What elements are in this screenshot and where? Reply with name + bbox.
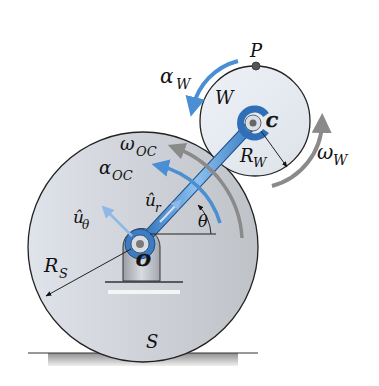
svg-text:W: W [176,76,192,92]
label-omega-w: ω W [317,140,349,168]
svg-text:α: α [160,64,174,88]
svg-text:W: W [333,152,349,168]
label-theta: θ [198,212,208,231]
svg-text:R: R [43,254,58,276]
label-alpha-w: α W [160,64,192,92]
svg-text:R: R [239,145,254,166]
label-w: W [215,87,235,108]
svg-text:ω: ω [120,133,135,154]
svg-text:W: W [253,155,268,170]
svg-text:S: S [59,266,68,281]
point-p [252,62,260,70]
label-p: P [249,40,263,61]
svg-text:OC: OC [136,144,157,159]
label-c: C [266,113,278,131]
svg-text:OC: OC [112,168,133,183]
diagram-canvas: P W C α W ω W R W ω OC α OC û r û θ θ O … [0,0,379,386]
svg-text:θ: θ [82,218,90,232]
label-s: S [146,331,158,352]
svg-text:ω: ω [317,140,333,164]
label-o: O [136,250,151,270]
svg-text:α: α [99,157,111,178]
